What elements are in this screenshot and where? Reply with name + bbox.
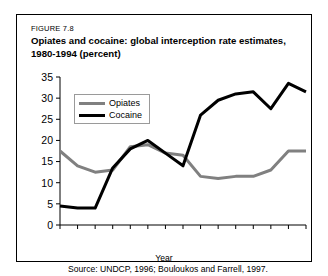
chart-legend: Opiates Cocaine bbox=[74, 94, 150, 124]
y-tick-label: 35 bbox=[41, 73, 53, 83]
y-tick-label: 30 bbox=[41, 92, 53, 104]
legend-swatch-opiates-icon bbox=[79, 102, 105, 105]
y-tick-label: 0 bbox=[47, 219, 53, 231]
legend-label-cocaine: Cocaine bbox=[109, 110, 142, 121]
legend-item-opiates: Opiates bbox=[79, 97, 142, 109]
figure-number-label: FIGURE 7.8 bbox=[31, 24, 74, 33]
line-chart-svg: 05101520253035 1980198219841986198819901… bbox=[17, 73, 311, 233]
x-axis: 19801982198419861988199019921994 bbox=[50, 225, 311, 233]
y-tick-label: 20 bbox=[41, 134, 53, 146]
source-note: Source: UNDCP, 1996; Bouloukos and Farre… bbox=[25, 264, 311, 274]
y-tick-label: 15 bbox=[41, 155, 53, 167]
legend-label-opiates: Opiates bbox=[109, 98, 140, 109]
figure-title: Opiates and cocaine: global interception… bbox=[31, 35, 303, 60]
y-tick-label: 5 bbox=[47, 198, 53, 210]
y-tick-label: 10 bbox=[41, 177, 53, 189]
y-tick-label: 25 bbox=[41, 113, 53, 125]
legend-swatch-cocaine-icon bbox=[79, 114, 105, 117]
x-axis-title: Year bbox=[17, 253, 311, 263]
chart-plot-area: Opiates Cocaine 05101520253035 198019821… bbox=[17, 73, 311, 233]
legend-item-cocaine: Cocaine bbox=[79, 109, 142, 121]
y-axis: 05101520253035 bbox=[41, 73, 60, 231]
figure-container: FIGURE 7.8 Opiates and cocaine: global i… bbox=[16, 14, 312, 262]
